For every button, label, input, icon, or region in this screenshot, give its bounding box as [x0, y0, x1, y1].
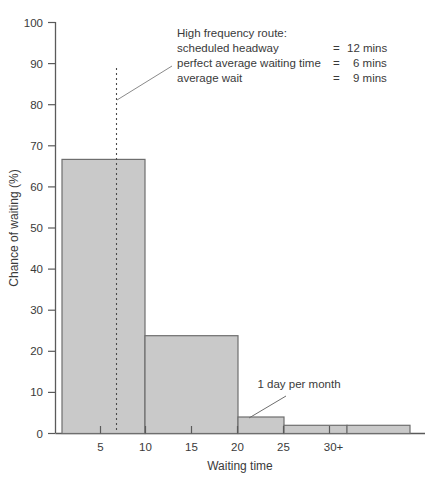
x-tick-label-10: 10: [139, 441, 152, 453]
bar-0-10[interactable]: [62, 159, 145, 433]
annotation-row-1-label: perfect average waiting time: [177, 57, 321, 69]
annotation-leader-line: [117, 66, 172, 100]
bar-10-20[interactable]: [145, 336, 238, 434]
y-tick-label-0: 0: [37, 428, 43, 440]
y-tick-label-50: 50: [30, 222, 43, 234]
annotation-row-1-equals: =: [333, 57, 340, 69]
y-tick-label-40: 40: [30, 263, 43, 275]
x-axis-tick-labels: 5 10 15 20 25 30+: [97, 441, 343, 453]
bar-20-25[interactable]: [238, 417, 284, 434]
bars-group: [62, 159, 410, 433]
annotation-row-0-equals: =: [333, 42, 340, 54]
y-axis-title: Chance of waiting (%): [7, 169, 21, 286]
callout-leader-line: [249, 396, 286, 418]
annotation-row-1-value: 6 mins: [353, 57, 387, 69]
annotation-row-2-value: 9 mins: [353, 72, 387, 84]
x-tick-label-30-plus: 30+: [324, 441, 344, 453]
annotation-heading: High frequency route:: [177, 27, 287, 39]
x-tick-label-15: 15: [185, 441, 198, 453]
histogram-figure: 0 10 20 30 40 50 60 70 80 90 100 Chance …: [0, 0, 435, 485]
one-day-per-month-callout: 1 day per month: [249, 378, 341, 418]
annotation-row-2-equals: =: [333, 72, 340, 84]
annotation-row-0-value: 12 mins: [347, 42, 388, 54]
x-tick-label-20: 20: [231, 441, 244, 453]
y-tick-label-30: 30: [30, 304, 43, 316]
x-tick-label-25: 25: [277, 441, 290, 453]
y-tick-label-80: 80: [30, 99, 43, 111]
y-axis-ticks: [48, 23, 56, 434]
chart-svg: 0 10 20 30 40 50 60 70 80 90 100 Chance …: [0, 0, 435, 485]
y-tick-label-90: 90: [30, 58, 43, 70]
y-tick-label-70: 70: [30, 140, 43, 152]
y-tick-label-20: 20: [30, 345, 43, 357]
annotation-row-2-label: average wait: [177, 72, 243, 84]
y-tick-label-100: 100: [24, 17, 43, 29]
x-tick-label-5: 5: [97, 441, 103, 453]
bar-30-plus[interactable]: [347, 425, 410, 433]
callout-label: 1 day per month: [257, 378, 340, 390]
y-axis-tick-labels: 0 10 20 30 40 50 60 70 80 90 100: [24, 17, 43, 440]
annotation-row-0-label: scheduled headway: [177, 42, 279, 54]
annotation-block: High frequency route: scheduled headway …: [177, 27, 388, 84]
x-axis-title: Waiting time: [207, 459, 273, 473]
bar-25-30[interactable]: [284, 425, 347, 433]
y-tick-label-60: 60: [30, 181, 43, 193]
y-tick-label-10: 10: [30, 386, 43, 398]
